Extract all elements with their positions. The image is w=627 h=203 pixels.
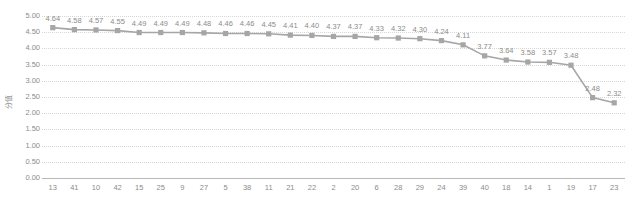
- data-point-marker: [50, 25, 55, 30]
- data-point-label: 3.58: [521, 48, 536, 57]
- data-point-marker: [352, 34, 357, 39]
- data-point-label: 4.11: [456, 31, 470, 40]
- x-axis-tick-label: 19: [567, 183, 575, 192]
- x-axis-tick-label: 41: [70, 183, 78, 192]
- x-axis-tick-label: 6: [375, 183, 379, 192]
- data-point-label: 4.37: [326, 22, 341, 31]
- y-axis-tick-label: 3.00: [25, 77, 40, 85]
- data-point-marker: [590, 95, 595, 100]
- x-axis-tick-label: 27: [200, 183, 208, 192]
- x-axis-tick-label: 38: [243, 183, 251, 192]
- x-axis-tick-label: 14: [524, 183, 532, 192]
- data-point-marker: [525, 59, 530, 64]
- x-axis-tick-label: 40: [480, 183, 488, 192]
- gridline: [42, 178, 625, 179]
- y-axis-title: 分值: [3, 95, 13, 109]
- y-axis-tick-label: 1.50: [25, 125, 40, 133]
- data-point-label: 4.49: [153, 19, 168, 28]
- x-axis-tick-label: 5: [223, 183, 227, 192]
- x-axis-tick-label: 15: [135, 183, 143, 192]
- y-axis-tick-label: 1.00: [25, 142, 40, 150]
- data-point-label: 4.41: [283, 21, 298, 30]
- data-point-marker: [309, 33, 314, 38]
- data-point-marker: [245, 31, 250, 36]
- y-axis-tick-label: 0.00: [25, 174, 40, 182]
- x-axis-tick-labels: 1341104215259275381121222206282924394018…: [42, 180, 625, 200]
- data-point-marker: [331, 34, 336, 39]
- data-point-label: 4.57: [89, 16, 104, 25]
- y-axis-tick-label: 2.00: [25, 109, 40, 117]
- line-chart: 分值 5.004.504.003.503.002.502.001.501.000…: [0, 0, 627, 203]
- y-axis-tick-label: 4.00: [25, 44, 40, 52]
- x-axis-tick-label: 23: [610, 183, 618, 192]
- data-point-marker: [612, 100, 617, 105]
- data-point-marker: [288, 33, 293, 38]
- data-point-label: 4.64: [45, 14, 60, 23]
- data-point-marker: [547, 60, 552, 65]
- x-axis-tick-label: 39: [459, 183, 467, 192]
- data-point-marker: [460, 42, 465, 47]
- data-point-marker: [180, 30, 185, 35]
- data-point-label: 4.45: [261, 20, 276, 29]
- data-point-label: 4.46: [218, 19, 233, 28]
- data-point-label: 3.77: [477, 42, 492, 51]
- x-axis-tick-label: 2: [331, 183, 335, 192]
- x-axis-tick-label: 42: [113, 183, 121, 192]
- x-axis-tick-label: 28: [394, 183, 402, 192]
- data-point-label: 4.24: [434, 27, 449, 36]
- x-axis-tick-label: 9: [180, 183, 184, 192]
- data-point-marker: [137, 30, 142, 35]
- data-point-marker: [504, 57, 509, 62]
- data-point-marker: [201, 30, 206, 35]
- data-point-marker: [266, 31, 271, 36]
- data-point-label: 4.55: [110, 17, 125, 26]
- data-point-label: 4.32: [391, 24, 406, 33]
- x-axis-tick-label: 21: [286, 183, 294, 192]
- y-axis-tick-label: 4.50: [25, 28, 40, 36]
- x-axis-tick-label: 13: [49, 183, 57, 192]
- data-point-label: 3.64: [499, 46, 514, 55]
- x-axis-tick-label: 24: [437, 183, 445, 192]
- data-point-label: 4.40: [305, 21, 320, 30]
- data-point-label: 3.57: [542, 48, 557, 57]
- x-axis-tick-label: 25: [157, 183, 165, 192]
- data-point-label: 2.32: [607, 89, 622, 98]
- y-axis-tick-label: 2.50: [25, 93, 40, 101]
- x-axis-tick-label: 29: [416, 183, 424, 192]
- x-axis-tick-label: 22: [308, 183, 316, 192]
- data-point-marker: [396, 35, 401, 40]
- data-point-label: 4.37: [348, 22, 363, 31]
- x-axis-tick-label: 10: [92, 183, 100, 192]
- data-point-label: 4.49: [132, 19, 147, 28]
- data-point-label: 3.48: [564, 51, 579, 60]
- data-point-label: 4.48: [197, 19, 212, 28]
- y-axis-tick-labels: 5.004.504.003.503.002.502.001.501.000.50…: [14, 0, 40, 178]
- series-line-svg: [42, 16, 625, 178]
- data-point-marker: [93, 27, 98, 32]
- plot-area: 4.644.584.574.554.494.494.494.484.464.46…: [42, 16, 625, 178]
- data-point-marker: [568, 63, 573, 68]
- x-axis-tick-label: 18: [502, 183, 510, 192]
- x-axis-tick-label: 11: [265, 183, 273, 192]
- y-axis-tick-label: 0.50: [25, 158, 40, 166]
- data-point-label: 4.49: [175, 19, 190, 28]
- data-point-marker: [223, 31, 228, 36]
- y-axis-tick-label: 5.00: [25, 12, 40, 20]
- data-point-label: 4.30: [413, 25, 428, 34]
- x-axis-tick-label: 1: [547, 183, 551, 192]
- data-point-marker: [72, 27, 77, 32]
- data-point-marker: [158, 30, 163, 35]
- y-axis-tick-label: 3.50: [25, 61, 40, 69]
- data-point-marker: [417, 36, 422, 41]
- x-axis-tick-label: 20: [351, 183, 359, 192]
- data-point-label: 4.33: [369, 24, 384, 33]
- data-point-marker: [374, 35, 379, 40]
- data-point-marker: [482, 53, 487, 58]
- x-axis-tick-label: 17: [588, 183, 596, 192]
- data-point-label: 4.58: [67, 16, 82, 25]
- data-point-marker: [439, 38, 444, 43]
- data-point-label: 2.48: [585, 84, 600, 93]
- data-point-label: 4.46: [240, 19, 255, 28]
- data-point-marker: [115, 28, 120, 33]
